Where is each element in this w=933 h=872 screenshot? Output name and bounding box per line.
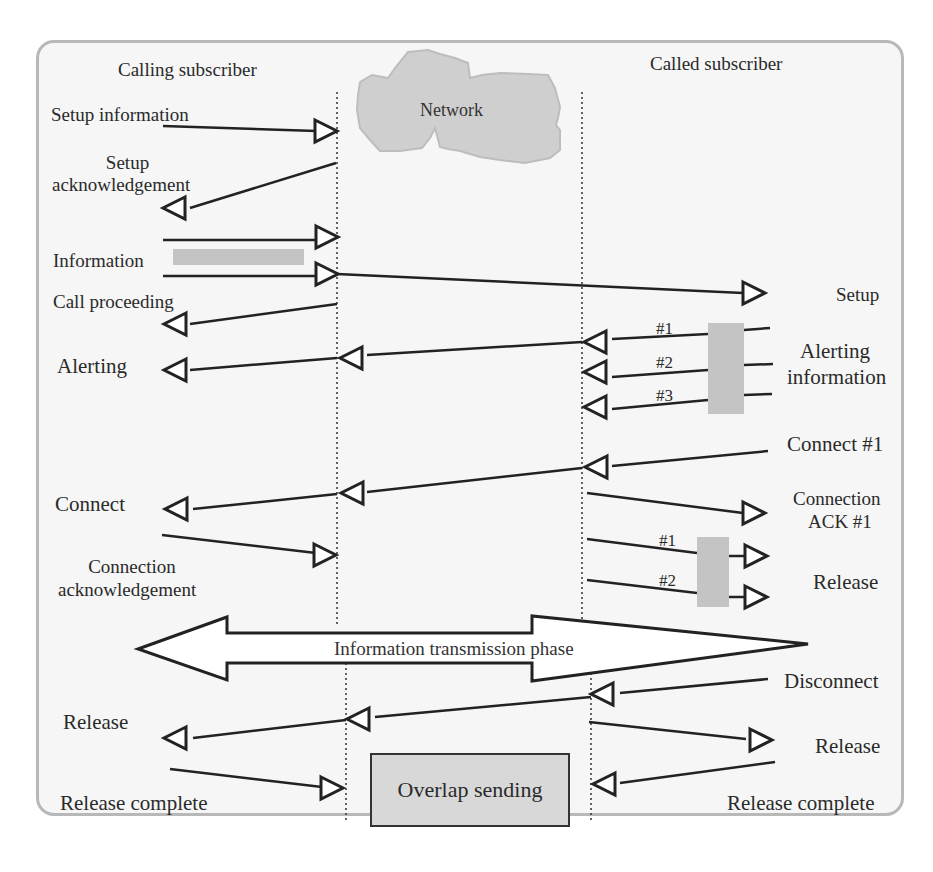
arrowhead-right-icon [750, 729, 772, 751]
arrowhead-left-icon [584, 396, 606, 418]
arrowhead-left-icon [164, 313, 186, 335]
label-disconnect: Disconnect [784, 670, 878, 692]
tag-alert-1: #1 [656, 318, 673, 340]
overlap-sending-label: Overlap sending [398, 777, 543, 803]
arrowhead-right-icon [315, 120, 337, 142]
arrowhead-right-icon [745, 545, 767, 567]
arrowhead-left-icon [341, 482, 363, 504]
label-alerting: Alerting [57, 355, 127, 377]
label-connect: Connect [55, 493, 125, 515]
arrowhead-left-icon [340, 347, 362, 369]
arrowhead-right-icon [743, 502, 765, 524]
arrowhead-left-icon [163, 197, 185, 219]
label-connection-ack-line1: Connection [58, 556, 206, 578]
information-transmission-phase-label: Information transmission phase [334, 638, 574, 660]
label-alerting-info-line2: information [787, 366, 886, 388]
arrowhead-right-icon [314, 544, 336, 566]
arrowhead-left-icon [584, 331, 606, 353]
label-release-right: Release [813, 571, 878, 593]
arrowhead-right-icon [321, 777, 343, 799]
arrowhead-left-icon [591, 683, 613, 705]
calling-subscriber-title: Calling subscriber [118, 59, 257, 81]
label-setup-ack-line1: Setup [51, 152, 204, 174]
called-subscriber-title: Called subscriber [650, 53, 782, 75]
network-label: Network [420, 100, 483, 121]
label-release-complete-right: Release complete [727, 792, 875, 814]
label-release-complete-left: Release complete [60, 792, 208, 814]
arrowhead-left-icon [164, 359, 186, 381]
label-release-left: Release [63, 711, 128, 733]
arrowhead-left-icon [347, 708, 369, 730]
message-lines [162, 126, 775, 787]
release-shade [697, 537, 729, 607]
arrowhead-left-icon [585, 456, 607, 478]
arrowhead-right-icon [316, 226, 338, 248]
arrowhead-left-icon [593, 773, 615, 795]
arrowhead-left-icon [165, 498, 187, 520]
label-information: Information [53, 250, 144, 272]
tag-alert-3: #3 [656, 385, 673, 407]
label-alerting-info-line1: Alerting [800, 340, 870, 362]
tag-release-1: #1 [659, 530, 676, 552]
label-connection-ack-line2: acknowledgement [58, 579, 196, 601]
arrowhead-right-icon [745, 586, 767, 608]
tag-alert-2: #2 [656, 352, 673, 374]
label-setup-right: Setup [836, 284, 879, 306]
arrowhead-left-icon [164, 727, 186, 749]
arrowhead-right-icon [316, 263, 338, 285]
label-release-right-2: Release [815, 735, 880, 757]
label-call-proceeding: Call proceeding [53, 291, 174, 313]
label-connection-ack-right-line1: Connection [793, 488, 881, 510]
label-setup-information: Setup information [51, 104, 189, 126]
label-setup-ack-line2: acknowledgement [52, 174, 190, 196]
alerting-shade [708, 323, 744, 414]
arrowhead-right-icon [743, 282, 765, 304]
label-connect-1: Connect #1 [787, 433, 883, 455]
tag-release-2: #2 [659, 570, 676, 592]
overlap-sending-box: Overlap sending [370, 753, 570, 827]
arrowhead-left-icon [584, 361, 606, 383]
label-connection-ack-right-line2: ACK #1 [808, 511, 872, 533]
information-shade [173, 249, 304, 265]
